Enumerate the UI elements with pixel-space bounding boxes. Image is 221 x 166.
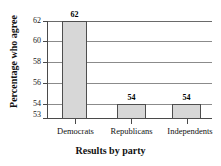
x-tick-mark-independents: [187, 119, 188, 124]
x-category-label-independents: Independents: [159, 126, 221, 136]
y-tick-label-58: 58: [0, 58, 41, 66]
y-tick-label-54: 54: [0, 100, 41, 108]
y-axis-line: [47, 21, 48, 119]
bar-chart: Percentage who agree 62 60 58 56 54 53 6…: [0, 0, 221, 166]
bar-independents: [172, 104, 201, 119]
bar-value-republicans: 54: [117, 93, 146, 102]
bar-republicans: [117, 104, 146, 119]
bar-value-independents: 54: [172, 93, 201, 102]
y-tick-label-53: 53: [0, 111, 41, 119]
x-axis-title: Results by party: [0, 145, 221, 156]
bar-democrats: [62, 21, 87, 119]
y-tick-label-56: 56: [0, 79, 41, 87]
y-tick-label-60: 60: [0, 37, 41, 45]
y-tick-label-62: 62: [0, 17, 41, 25]
x-tick-mark-republicans: [131, 119, 132, 124]
x-category-label-democrats: Democrats: [47, 126, 104, 136]
bar-value-democrats: 62: [60, 10, 89, 19]
x-tick-mark-democrats: [75, 119, 76, 124]
x-category-label-republicans: Republicans: [103, 126, 160, 136]
